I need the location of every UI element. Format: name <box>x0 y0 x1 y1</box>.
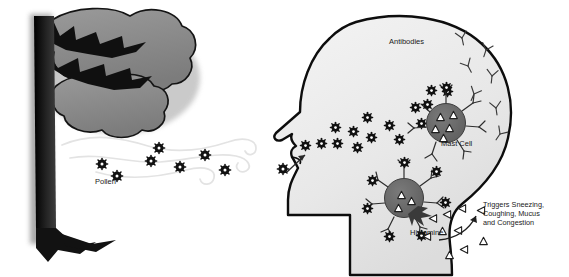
bound-pollen <box>422 99 432 109</box>
label-mast-cell: Mast Cell <box>441 139 472 148</box>
diagram-illustration <box>0 0 569 277</box>
label-pollen: Pollen <box>95 177 116 186</box>
pollen-grain <box>362 112 372 122</box>
tree-group <box>30 9 200 262</box>
pollen-grain <box>410 102 420 112</box>
label-antibodies: Antibodies <box>389 37 424 46</box>
pollen-grain <box>145 155 156 166</box>
pollen-grain <box>332 138 342 148</box>
pollen-grain <box>219 164 230 175</box>
pollen-grain <box>394 134 404 144</box>
bound-pollen <box>440 197 450 207</box>
pollen-grain <box>426 85 436 95</box>
pollen-grain <box>174 161 185 172</box>
mast-cell-body <box>427 104 466 143</box>
pollen-grain <box>330 122 340 132</box>
histamine-icon <box>480 237 488 244</box>
histamine-icon <box>460 246 467 254</box>
bound-pollen <box>367 175 377 185</box>
bound-pollen <box>362 203 372 213</box>
pollen-grain <box>153 142 164 153</box>
bound-pollen <box>431 166 441 176</box>
label-triggers-outcome: Triggers Sneezing, Coughing, Mucus and C… <box>483 201 544 228</box>
bound-pollen <box>384 231 394 241</box>
bound-pollen <box>399 157 409 167</box>
label-histamine: Histamine <box>410 228 443 237</box>
pollen-grain <box>348 126 358 136</box>
bound-pollen <box>441 82 451 92</box>
pollen-grain <box>96 158 107 169</box>
pollen-grain <box>277 163 288 174</box>
allergy-diagram-canvas: Pollen Antibodies Mast Cell Histamine Tr… <box>0 0 569 277</box>
pollen-grain <box>384 120 394 130</box>
pollen-grain <box>352 142 362 152</box>
pollen-grain <box>316 138 326 148</box>
tree-trunk <box>34 16 56 230</box>
pollen-grain <box>300 140 310 150</box>
airborne-pollen-group <box>96 142 288 181</box>
pollen-grain <box>366 132 376 142</box>
pollen-grain <box>199 149 210 160</box>
